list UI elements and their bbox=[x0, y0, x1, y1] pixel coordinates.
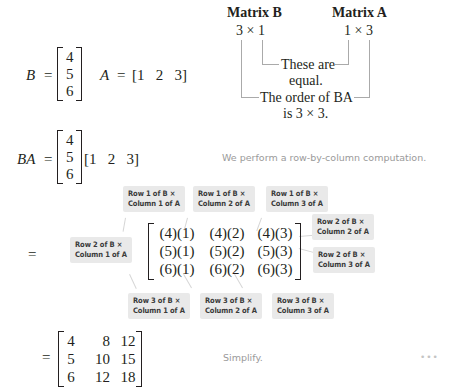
matrix-cell: 6 bbox=[62, 368, 80, 386]
tag-row3-col2: Row 3 of B ×Column 2 of A bbox=[200, 293, 262, 319]
matrix-cell: 5 bbox=[66, 148, 74, 166]
matrix-cell: (6)(3) bbox=[252, 260, 298, 278]
connector-line bbox=[354, 97, 370, 98]
matrix-cell: 6 bbox=[66, 82, 74, 100]
matrix-cell: (4)(2) bbox=[204, 224, 250, 242]
equals-sign: = bbox=[44, 66, 52, 84]
matrix-cell: (5)(1) bbox=[154, 242, 200, 260]
matrix-cell: 5 bbox=[66, 65, 74, 83]
matrix-cell: 12 bbox=[117, 332, 139, 350]
matrix-cell: (5)(2) bbox=[204, 242, 250, 260]
matrix-cell: (4)(3) bbox=[252, 224, 298, 242]
matrix-cell: 12 bbox=[88, 368, 110, 386]
matrix-b-order: 3 × 1 bbox=[236, 22, 265, 40]
tag-row1-col2: Row 1 of B ×Column 2 of A bbox=[193, 186, 255, 212]
equals-sign: = bbox=[42, 348, 50, 366]
matrix-cell: (4)(1) bbox=[154, 224, 200, 242]
equals-sign: = bbox=[44, 150, 52, 168]
tag-row3-col1: Row 3 of B ×Column 1 of A bbox=[128, 293, 190, 319]
simplify-note: Simplify. bbox=[223, 352, 263, 363]
connector-line bbox=[348, 40, 349, 65]
tag-row1-col1: Row 1 of B ×Column 1 of A bbox=[123, 186, 185, 212]
matrix-cell: 5 bbox=[62, 350, 80, 368]
b-symbol: B bbox=[26, 66, 35, 84]
tag-row1-col3: Row 1 of B ×Column 3 of A bbox=[266, 186, 328, 212]
connector-line bbox=[262, 40, 263, 65]
matrix-a-title: Matrix A bbox=[332, 4, 387, 22]
equals-sign: = bbox=[117, 66, 125, 84]
a-symbol: A bbox=[100, 66, 109, 84]
connector-line bbox=[369, 40, 370, 98]
matrix-a: [1 2 3] bbox=[132, 66, 187, 84]
matrix-cell: 8 bbox=[88, 332, 110, 350]
connector-line bbox=[241, 97, 259, 98]
tag-row3-col3: Row 3 of B ×Column 3 of A bbox=[272, 293, 334, 319]
step-note: We perform a row-by-column computation. bbox=[222, 152, 426, 163]
tag-row2-col3: Row 2 of B ×Column 3 of A bbox=[313, 247, 375, 273]
matrix-cell: 15 bbox=[117, 350, 139, 368]
matrix-cell: 10 bbox=[88, 350, 110, 368]
connector-line bbox=[262, 64, 279, 65]
more-indicator-icon: ••• bbox=[420, 352, 439, 362]
inner-note-line2: equal. bbox=[289, 72, 323, 90]
outer-note-line2: is 3 × 3. bbox=[283, 105, 328, 123]
connector-line bbox=[335, 64, 349, 65]
matrix-cell: 4 bbox=[66, 131, 74, 149]
connector-line bbox=[241, 40, 242, 98]
matrix-cell: 18 bbox=[117, 368, 139, 386]
matrix-cell: 6 bbox=[66, 165, 74, 183]
matrix-cell: (6)(1) bbox=[154, 260, 200, 278]
matrix-a-order: 1 × 3 bbox=[344, 22, 373, 40]
equals-sign: = bbox=[28, 245, 36, 263]
ba-symbol: BA bbox=[17, 150, 35, 168]
matrix-a: [1 2 3] bbox=[84, 150, 139, 168]
tag-row2-col2: Row 2 of B ×Column 2 of A bbox=[312, 214, 374, 240]
matrix-cell: 4 bbox=[66, 48, 74, 66]
matrix-cell: (6)(2) bbox=[204, 260, 250, 278]
matrix-cell: (5)(3) bbox=[252, 242, 298, 260]
tag-row2-col1: Row 2 of B ×Column 1 of A bbox=[70, 237, 132, 263]
matrix-cell: 4 bbox=[62, 332, 80, 350]
matrix-b-title: Matrix B bbox=[227, 4, 282, 22]
